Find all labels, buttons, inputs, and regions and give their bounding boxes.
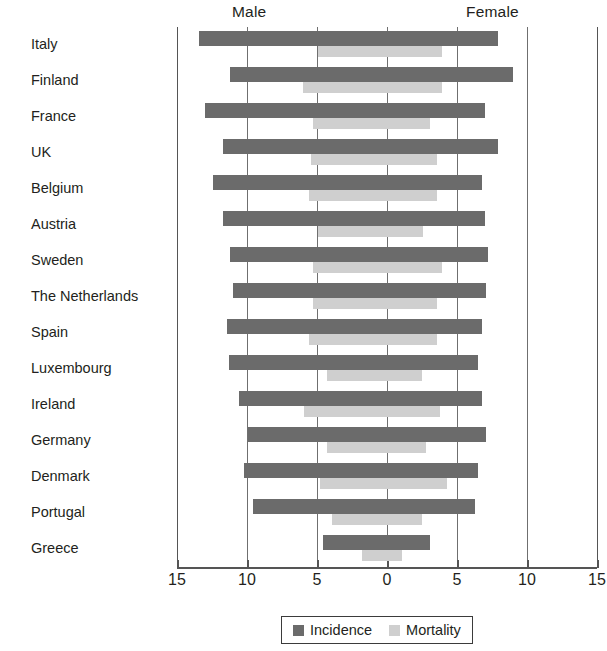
bar-row: [177, 283, 597, 319]
axis-tick: [527, 560, 529, 568]
incidence-bar: [323, 535, 431, 550]
legend-item-mortality: Mortality: [389, 622, 461, 638]
bar-row: [177, 391, 597, 427]
axis-tick: [317, 560, 319, 568]
incidence-bar: [253, 499, 476, 514]
incidence-bar: [233, 283, 486, 298]
incidence-bar: [223, 139, 497, 154]
category-label: UK: [0, 144, 165, 160]
axis-tick-label: 5: [453, 571, 462, 589]
plot-area: [177, 27, 597, 567]
incidence-bar: [205, 103, 485, 118]
axis-tick: [597, 560, 599, 568]
category-label: Finland: [0, 72, 165, 88]
category-label: Denmark: [0, 468, 165, 484]
male-side-label: Male: [232, 3, 266, 21]
axis-tick: [457, 560, 459, 568]
bar-row: [177, 463, 597, 499]
bar-row: [177, 427, 597, 463]
incidence-bar: [230, 67, 513, 82]
mortality-swatch-icon: [389, 625, 400, 636]
category-label: The Netherlands: [0, 288, 165, 304]
bar-row: [177, 175, 597, 211]
axis-tick-label: 0: [383, 571, 392, 589]
bar-row: [177, 139, 597, 175]
category-label: Greece: [0, 540, 165, 556]
axis-tick: [177, 560, 179, 568]
female-side-label: Female: [466, 3, 519, 21]
bar-row: [177, 355, 597, 391]
bar-row: [177, 31, 597, 67]
category-label: Italy: [0, 36, 165, 52]
incidence-bar: [230, 247, 488, 262]
axis-tick: [247, 560, 249, 568]
incidence-bar: [229, 355, 478, 370]
category-label: Germany: [0, 432, 165, 448]
category-label: Belgium: [0, 180, 165, 196]
axis-tick-label: 5: [313, 571, 322, 589]
bar-row: [177, 499, 597, 535]
incidence-bar: [213, 175, 482, 190]
bar-row: [177, 103, 597, 139]
axis-tick-label: 15: [588, 571, 606, 589]
legend-item-incidence: Incidence: [293, 622, 372, 638]
chart-container: Male Female ItalyFinlandFranceUKBelgiumA…: [0, 0, 607, 651]
axis-tick: [387, 560, 389, 568]
incidence-bar: [239, 391, 483, 406]
axis-tick-label: 10: [238, 571, 256, 589]
bar-row: [177, 319, 597, 355]
incidence-bar: [199, 31, 497, 46]
category-label: Ireland: [0, 396, 165, 412]
category-label: Luxembourg: [0, 360, 165, 376]
incidence-bar: [223, 211, 485, 226]
category-label: Austria: [0, 216, 165, 232]
axis-tick-label: 10: [518, 571, 536, 589]
category-label: France: [0, 108, 165, 124]
bar-row: [177, 247, 597, 283]
legend-label-incidence: Incidence: [310, 622, 372, 638]
bar-row: [177, 211, 597, 247]
incidence-bar: [244, 463, 478, 478]
category-label: Spain: [0, 324, 165, 340]
category-labels: ItalyFinlandFranceUKBelgiumAustriaSweden…: [0, 27, 170, 567]
legend-label-mortality: Mortality: [406, 622, 461, 638]
category-label: Portugal: [0, 504, 165, 520]
incidence-bar: [248, 427, 486, 442]
bar-row: [177, 67, 597, 103]
chart-legend: Incidence Mortality: [281, 616, 473, 644]
incidence-bar: [227, 319, 482, 334]
category-label: Sweden: [0, 252, 165, 268]
axis-tick-label: 15: [168, 571, 186, 589]
incidence-swatch-icon: [293, 625, 304, 636]
gridline: [597, 27, 598, 567]
